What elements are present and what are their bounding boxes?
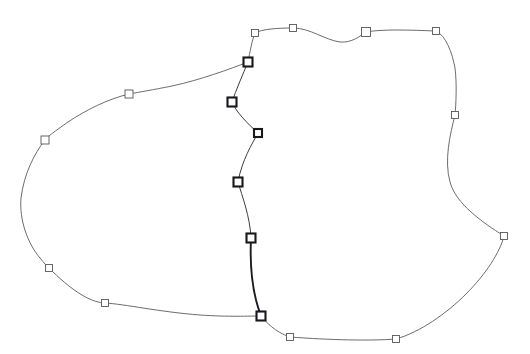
control-point-handle-s4[interactable]: [234, 178, 243, 187]
control-point-handle-n8[interactable]: [287, 334, 294, 341]
curve-layer: [21, 28, 504, 340]
control-point-handle-s5[interactable]: [247, 234, 256, 243]
contour-path-outer-boundary-left-lobe: [21, 62, 261, 316]
control-point-handle-n6[interactable]: [501, 233, 508, 240]
control-point-handle-n9[interactable]: [102, 300, 109, 307]
control-point-handle-n3[interactable]: [362, 28, 371, 37]
control-point-handle-n1[interactable]: [252, 30, 259, 37]
control-point-handle-n2[interactable]: [290, 25, 297, 32]
control-point-handle-s1[interactable]: [244, 58, 253, 67]
contour-path-outer-boundary-right-lobe: [248, 28, 504, 340]
control-point-handle-n11[interactable]: [41, 136, 49, 144]
diagram-canvas: [0, 0, 530, 354]
node-layer: [41, 25, 508, 343]
control-point-handle-s6[interactable]: [257, 312, 266, 321]
control-point-handle-s3[interactable]: [254, 129, 262, 137]
control-point-handle-n7[interactable]: [393, 336, 400, 343]
spline-contour-svg: [0, 0, 530, 354]
control-point-handle-n5[interactable]: [452, 112, 459, 119]
contour-path-spine-upper: [232, 62, 258, 238]
control-point-handle-n10[interactable]: [46, 265, 53, 272]
control-point-handle-n4[interactable]: [433, 28, 440, 35]
control-point-handle-n12[interactable]: [125, 90, 133, 98]
control-point-handle-s2[interactable]: [228, 98, 237, 107]
contour-path-spine-lower-heavy: [251, 238, 261, 316]
